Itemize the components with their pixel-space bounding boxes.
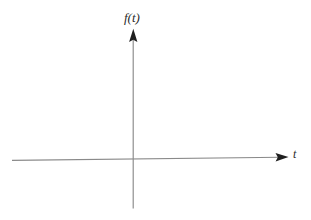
t-axis-line	[12, 157, 281, 160]
axes-canvas	[0, 0, 311, 220]
axes-figure: f(t) t	[0, 0, 311, 220]
f-axis-label: f(t)	[124, 11, 140, 24]
t-axis-label: t	[293, 148, 296, 160]
